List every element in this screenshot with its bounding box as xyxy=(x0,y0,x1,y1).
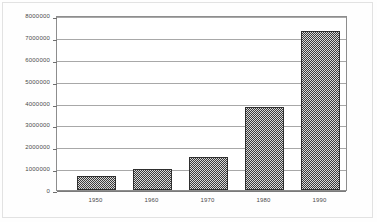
y-axis-tick xyxy=(53,62,57,63)
y-tick-label: 3000000 xyxy=(25,122,50,128)
bar-1970 xyxy=(189,157,228,190)
y-axis-tick xyxy=(53,84,57,85)
y-tick-label: 7000000 xyxy=(25,35,50,41)
x-tick-label: 1960 xyxy=(144,196,158,204)
plot-area xyxy=(56,16,347,191)
y-axis-tick xyxy=(53,171,57,172)
x-axis-baseline xyxy=(57,191,346,192)
y-tick-label: 2000000 xyxy=(25,144,50,150)
y-axis-tick xyxy=(53,149,57,150)
x-tick-label: 1950 xyxy=(88,196,102,204)
x-tick-label: 1980 xyxy=(256,196,270,204)
bar-chart-figure: 8000000 7000000 6000000 5000000 4000000 … xyxy=(0,0,377,222)
bar-1950 xyxy=(77,176,116,190)
y-tick-label: 8000000 xyxy=(25,13,50,19)
y-axis-tick xyxy=(53,127,57,128)
y-axis-tick xyxy=(53,192,57,193)
bar-1980 xyxy=(245,107,284,190)
y-tick-label: 5000000 xyxy=(25,79,50,85)
x-tick-label: 1990 xyxy=(312,196,326,204)
y-axis-tick xyxy=(53,18,57,19)
y-tick-label: 6000000 xyxy=(25,57,50,63)
y-axis-tick xyxy=(53,40,57,41)
bar-1990 xyxy=(301,31,340,190)
y-axis-tick-labels: 8000000 7000000 6000000 5000000 4000000 … xyxy=(0,16,52,191)
y-tick-label: 0 xyxy=(46,188,50,194)
gridline xyxy=(57,17,346,18)
y-tick-label: 4000000 xyxy=(25,101,50,107)
x-tick-label: 1970 xyxy=(200,196,214,204)
y-tick-label: 1000000 xyxy=(25,166,50,172)
bar-1960 xyxy=(133,169,172,190)
x-axis-tick-labels: 1950 1960 1970 1980 1990 xyxy=(56,196,347,208)
y-axis-tick xyxy=(53,106,57,107)
